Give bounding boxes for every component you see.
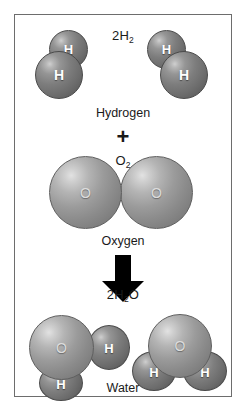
oxygen-atom: O — [120, 156, 193, 229]
hydrogen-atom: H — [88, 325, 130, 370]
atom-label-o: O — [30, 340, 93, 356]
oxygen-atom: O — [148, 314, 212, 378]
plus-sign: + — [15, 126, 231, 148]
oxygen-atom: O — [49, 156, 122, 229]
water-formula-subscript: 2 — [124, 294, 129, 304]
water-formula: 2H2O — [15, 288, 231, 301]
atom-label-o: O — [149, 338, 211, 354]
atom-label-h: H — [161, 67, 207, 83]
atom-label-o: O — [50, 185, 121, 201]
water-formula-suffix: O — [129, 287, 139, 302]
hydrogen-formula-prefix: 2H — [112, 28, 129, 43]
hydrogen-formula: 2H2 — [15, 29, 231, 42]
water-formula-prefix: 2H — [107, 287, 124, 302]
diagram-frame: 2H2 H H H H Hydrogen + O2 — [14, 14, 232, 397]
hydrogen-atom: H — [35, 51, 83, 99]
oxygen-name-label: Oxygen — [15, 235, 231, 248]
atom-label-h: H — [89, 341, 129, 356]
atom-label-h: H — [36, 67, 82, 83]
hydrogen-formula-subscript: 2 — [129, 35, 134, 45]
hydrogen-atom: H — [160, 51, 208, 99]
oxygen-formula-prefix: O — [115, 153, 125, 168]
oxygen-atom: O — [29, 315, 94, 380]
hydrogen-name-label: Hydrogen — [15, 107, 231, 120]
atom-label-o: O — [121, 185, 192, 201]
oxygen-formula: O2 — [15, 154, 231, 167]
chemistry-diagram: 2H2 H H H H Hydrogen + O2 — [0, 0, 246, 417]
